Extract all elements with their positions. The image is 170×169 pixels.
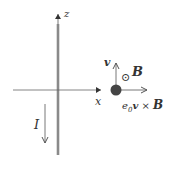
field-label: B [132,65,143,78]
current-label: I [34,118,39,131]
magnetic-force-diagram: z x I v ⊙ B e0v × B [0,0,170,169]
charged-particle [111,85,122,96]
field-out-of-page-icon: ⊙ [121,72,130,83]
z-axis-label: z [64,9,69,19]
x-axis-label: x [95,96,101,107]
velocity-label: v [104,57,110,68]
force-label: e0v × B [122,99,163,114]
diagram-graphics [0,0,170,169]
